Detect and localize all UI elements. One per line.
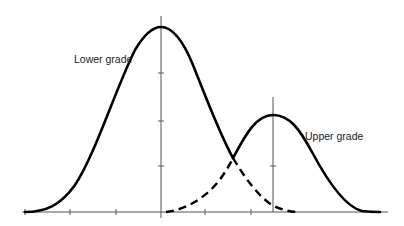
upper-grade-dashed-tail bbox=[166, 158, 233, 212]
lower-grade-label: Lower grade bbox=[74, 53, 132, 65]
distribution-diagram bbox=[0, 0, 404, 226]
lower-grade-dashed-tail bbox=[233, 158, 298, 212]
upper-grade-label: Upper grade bbox=[305, 130, 363, 142]
